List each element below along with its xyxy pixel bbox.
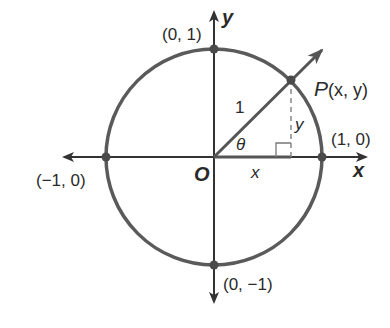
label-top-point: (0, 1) [162,25,202,44]
point-right [318,153,327,162]
label-y-leg: y [294,115,305,134]
label-radius: 1 [235,98,244,117]
label-p-letter: P [314,77,328,100]
label-right-point: (1, 0) [331,130,371,149]
label-theta: θ [236,135,246,154]
point-p [287,76,296,85]
label-left-point: (−1, 0) [36,171,86,190]
point-top [210,45,219,54]
label-p-coords: (x, y) [328,80,368,100]
label-point-p: P(x, y) [314,77,368,100]
unit-circle-diagram: (0, 1) (0, −1) (−1, 0) (1, 0) P(x, y) y … [0,0,390,328]
label-y-axis: y [221,6,234,28]
label-x-leg: x [250,163,260,182]
label-bottom-point: (0, −1) [223,275,273,294]
label-x-axis: x [352,159,365,181]
right-angle-marker [276,143,291,157]
point-left [102,153,111,162]
label-origin: O [194,163,210,185]
point-bottom [210,261,219,270]
